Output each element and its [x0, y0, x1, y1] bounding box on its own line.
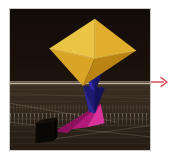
- red-pointer-arrow-icon: [151, 75, 169, 89]
- render-viewport[interactable]: [9, 8, 151, 151]
- render-canvas: [10, 9, 150, 150]
- screenshot-root: [0, 0, 169, 164]
- scene-objects: [10, 9, 150, 150]
- black-cube-icon: [36, 117, 58, 143]
- magenta-spike-icon: [55, 104, 104, 134]
- yellow-octahedron-icon: [49, 19, 136, 86]
